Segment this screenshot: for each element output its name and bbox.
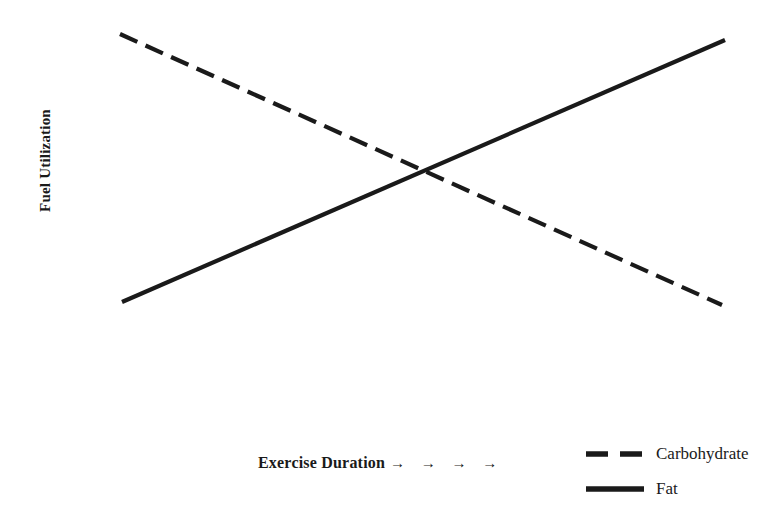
x-axis-arrows-icon: → → → → (385, 455, 503, 471)
legend-item-fat: Fat (586, 471, 782, 506)
legend-swatch-solid-icon (586, 484, 646, 494)
y-axis-label-text: Fuel Utilization (37, 109, 53, 212)
series-line-fat (122, 40, 725, 302)
x-axis-label: Exercise Duration→ → → → (258, 454, 503, 472)
legend-swatch-dashed-icon (586, 449, 646, 459)
chart-legend: Carbohydrate Fat (586, 436, 782, 506)
legend-label-fat: Fat (656, 480, 678, 497)
fuel-utilization-chart: Fuel Utilization Exercise Duration→ → → … (0, 0, 784, 526)
legend-item-carbohydrate: Carbohydrate (586, 436, 782, 471)
y-axis-label: Fuel Utilization (38, 61, 53, 261)
legend-label-carbohydrate: Carbohydrate (656, 445, 749, 462)
x-axis-label-text: Exercise Duration (258, 454, 385, 471)
